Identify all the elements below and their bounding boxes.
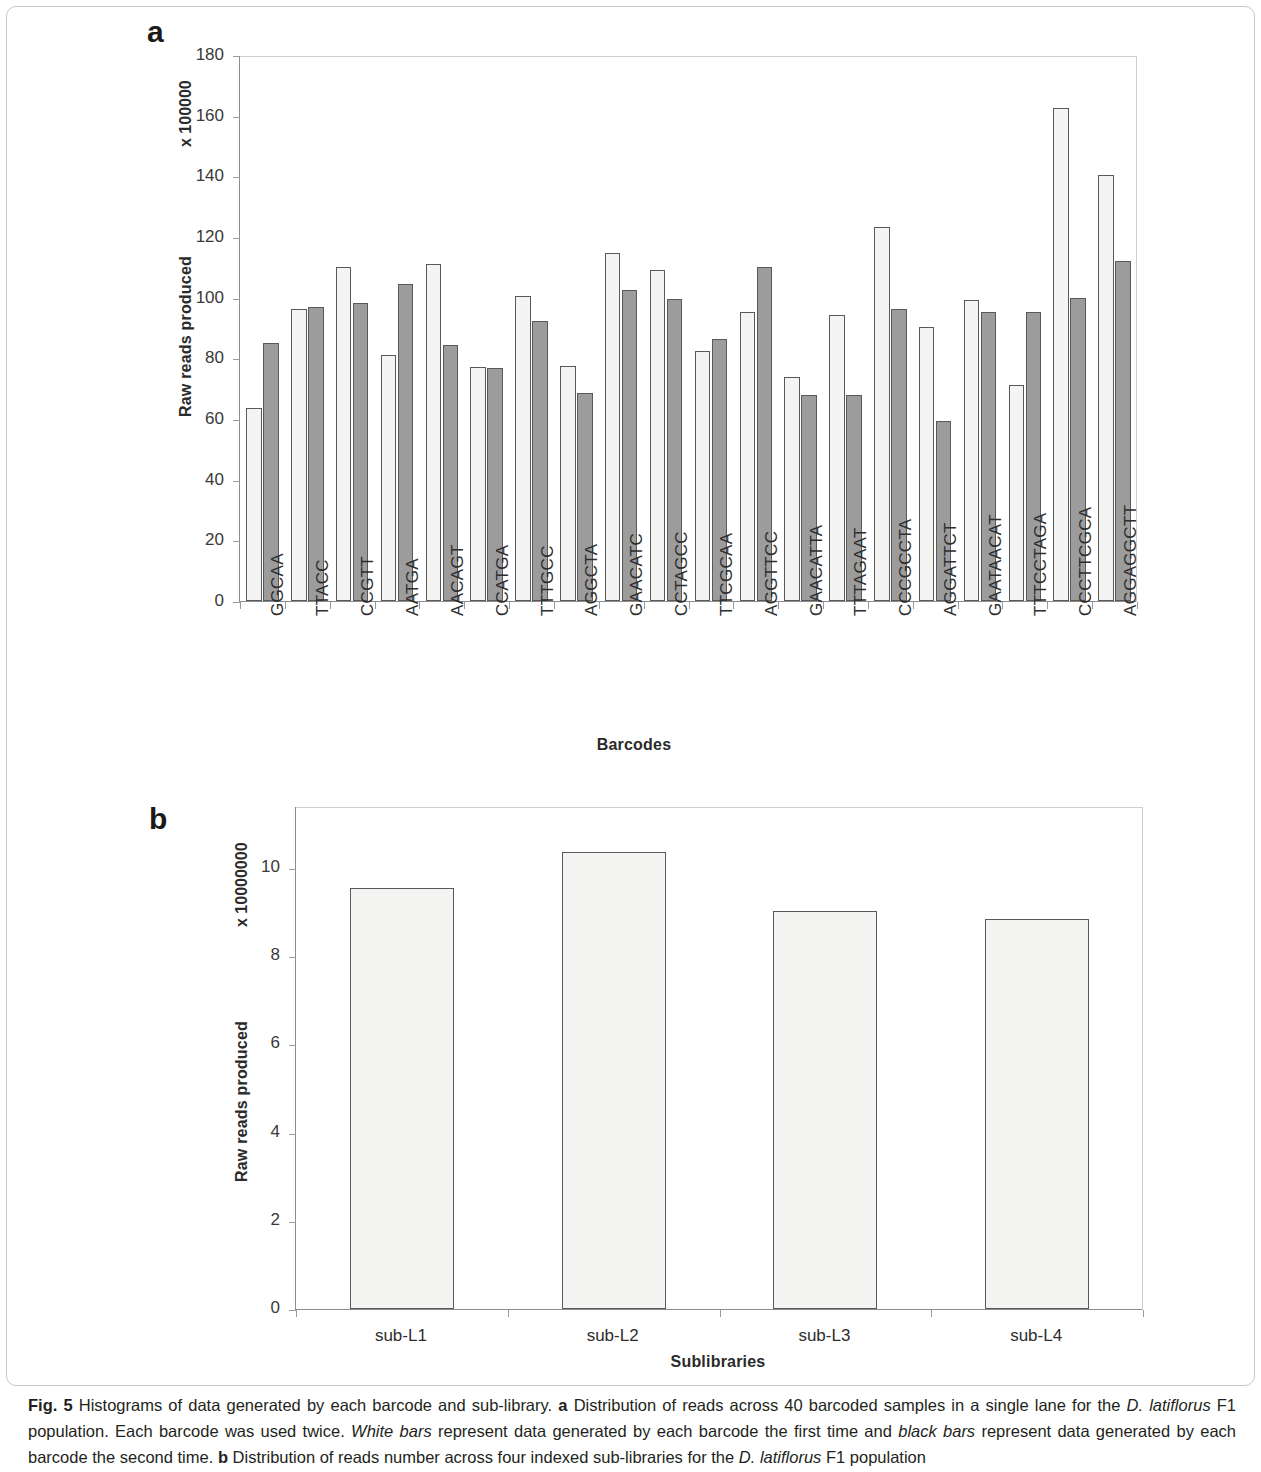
panel-a-bar — [964, 300, 980, 602]
panel-a-y-tick-label: 40 — [162, 470, 224, 490]
panel-b-x-axis-title: Sublibraries — [671, 1353, 766, 1371]
panel-b-y-tick-label: 6 — [228, 1033, 280, 1053]
panel-a-x-tick-label: GAACATC — [627, 533, 647, 616]
panel-a-x-tick-label: CCGTT — [358, 556, 378, 616]
panel-a-y-tickmark — [233, 299, 240, 300]
caption-figure-label: Fig. 5 — [28, 1396, 73, 1414]
panel-a-y-tick-label: 120 — [162, 227, 224, 247]
caption-marker-a: a — [558, 1396, 567, 1414]
panel-a-x-tick-label: GGCAA — [268, 553, 288, 616]
panel-a-y-tickmark — [233, 117, 240, 118]
panel-a-x-tick-label: AGGATTCT — [941, 522, 961, 616]
panel-b-x-tickmark — [508, 1310, 509, 1317]
panel-a-x-tick-label: CCCGCCTA — [896, 519, 916, 616]
panel-a-y-axis-title: Raw reads produced — [177, 256, 195, 417]
panel-b-y-tick-label: 8 — [228, 945, 280, 965]
panel-a-x-tick-label: AGGCTA — [582, 544, 602, 616]
panel-b-plot-area: 0246810 — [295, 807, 1142, 1310]
panel-b-right-rule — [1142, 807, 1143, 1310]
panel-a-y-tickmark — [233, 481, 240, 482]
panel-a-bar — [695, 351, 711, 601]
panel-a-bar — [650, 270, 666, 601]
caption-sentence-2: Distribution of reads across 40 barcoded… — [574, 1396, 1121, 1414]
panel-b-y-tickmark — [289, 869, 296, 870]
panel-b-y-tickmark — [289, 1222, 296, 1223]
panel-a-x-axis-title: Barcodes — [597, 736, 672, 754]
panel-b-x-tickmark — [296, 1310, 297, 1317]
caption-italic-species-2: D. latiflorus — [739, 1448, 822, 1466]
panel-a-x-tick-label: CCATGA — [493, 545, 513, 616]
caption-sentence-4: represent data generated by each barcode… — [438, 1422, 892, 1440]
caption-italic-black-bars: black bars — [898, 1422, 975, 1440]
panel-b-x-tick-label: sub-L2 — [543, 1326, 683, 1346]
panel-a-x-tick-label: TTCGCAA — [717, 533, 737, 616]
panel-a-y-tickmark — [233, 541, 240, 542]
panel-a-bar — [829, 315, 845, 601]
panel-b-y-tick-label: 2 — [228, 1210, 280, 1230]
panel-b-bar — [985, 919, 1089, 1309]
panel-a-bar — [470, 367, 486, 601]
caption-sentence-1: Histograms of data generated by each bar… — [79, 1396, 552, 1414]
panel-a-x-tick-label: CCTAGCC — [672, 531, 692, 616]
panel-a-x-tick-label: GAACATTA — [807, 524, 827, 616]
panel-a-bar — [1009, 385, 1025, 601]
panel-a-x-tick-label: AATGA — [403, 558, 423, 616]
panel-a-bar — [560, 366, 576, 601]
panel-b-x-tickmark — [931, 1310, 932, 1317]
panel-b-y-tickmark — [289, 1045, 296, 1046]
panel-b-y-tickmark — [289, 1310, 296, 1311]
panel-a-bar — [740, 312, 756, 601]
panel-a-y-tickmark — [233, 56, 240, 57]
panel-a-bar — [381, 355, 397, 601]
panel-a-y-tick-label: 20 — [162, 530, 224, 550]
figure-caption: Fig. 5 Histograms of data generated by e… — [28, 1392, 1236, 1470]
panel-a-x-tick-label: GAATAACAT — [986, 514, 1006, 616]
panel-a-bar — [336, 267, 352, 601]
panel-a-y-tickmark — [233, 177, 240, 178]
panel-a-bar — [398, 284, 414, 601]
panel-a-bar — [1098, 175, 1114, 601]
panel-a-x-tick-label: TTACC — [313, 559, 333, 616]
panel-b-x-tick-label: sub-L1 — [331, 1326, 471, 1346]
panel-b-y-tick-label: 0 — [228, 1298, 280, 1318]
panel-a-x-tick-label: TTTAGAAT — [851, 527, 871, 616]
panel-a-y-tick-label: 180 — [162, 45, 224, 65]
panel-b-letter: b — [149, 802, 167, 836]
panel-b-bar — [562, 852, 666, 1309]
caption-sentence-7: F1 population — [826, 1448, 926, 1466]
panel-a-y-tick-label: 0 — [162, 591, 224, 611]
panel-a-x-tick-label: CCCTTCGCA — [1076, 507, 1096, 616]
panel-b-x-tick-label: sub-L3 — [754, 1326, 894, 1346]
panel-a-bar — [784, 377, 800, 601]
panel-a-y-tickmark — [233, 602, 240, 603]
caption-sentence-6: Distribution of reads number across four… — [233, 1448, 735, 1466]
panel-a-y-tick-label: 160 — [162, 106, 224, 126]
panel-b-y-tick-label: 4 — [228, 1122, 280, 1142]
panel-a-x-tick-label: AGGAGGCTT — [1121, 505, 1141, 616]
panel-a-y-tick-label: 140 — [162, 166, 224, 186]
panel-a-bar — [426, 264, 442, 601]
panel-b-unit-label: x 10000000 — [233, 842, 251, 927]
panel-a-bar — [291, 309, 307, 601]
panel-a-x-tick-label: AACAGT — [448, 544, 468, 616]
panel-a-bar — [308, 307, 324, 601]
panel-a-letter: a — [147, 15, 164, 49]
panel-a-y-tickmark — [233, 238, 240, 239]
panel-a-top-rule — [240, 56, 1137, 57]
panel-b-x-tick-label: sub-L4 — [966, 1326, 1106, 1346]
panel-a-bar — [515, 296, 531, 601]
panel-a-bar — [246, 408, 262, 601]
panel-b-x-tickmark — [1143, 1310, 1144, 1317]
panel-a-y-tick-label: 60 — [162, 409, 224, 429]
panel-a-y-tick-label: 80 — [162, 348, 224, 368]
panel-b-bar — [773, 911, 877, 1309]
panel-b-y-tick-label: 10 — [228, 857, 280, 877]
panel-a-bar — [605, 253, 621, 601]
panel-a-bar — [874, 227, 890, 601]
panel-a-x-tick-label: TTTGCC — [538, 545, 558, 616]
panel-b-x-tickmark — [720, 1310, 721, 1317]
panel-a-bar — [919, 327, 935, 601]
panel-a-y-tickmark — [233, 359, 240, 360]
figure-frame: a x 100000 Raw reads produced 0204060801… — [6, 6, 1255, 1386]
caption-italic-white-bars: White bars — [351, 1422, 432, 1440]
